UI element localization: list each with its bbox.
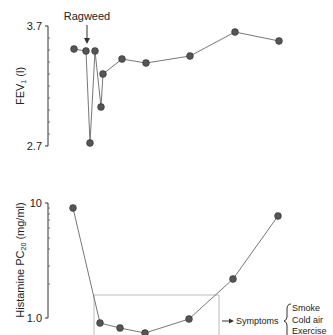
figure: 3.7 2.7 FEV1 (l) Ragweed 10 1.0 [0, 0, 333, 335]
histamine-chart: 10 1.0 Histamine PC20 (mg/ml) Symptoms S… [14, 197, 327, 335]
trigger-cold-air: Cold air [292, 315, 323, 325]
fev1-line [74, 32, 279, 143]
brace-icon [284, 304, 291, 335]
fev1-chart: 3.7 2.7 FEV1 (l) Ragweed [14, 10, 282, 152]
y-axis-label: Histamine PC20 (mg/ml) [14, 202, 27, 317]
y-tick-top: 3.7 [27, 20, 42, 32]
arrow-down-icon [84, 38, 90, 44]
histamine-line [73, 208, 278, 333]
y-axis-label: FEV1 (l) [14, 67, 27, 105]
y-tick-bottom: 2.7 [27, 140, 42, 152]
trigger-exercise: Exercise [292, 326, 327, 335]
symptoms-label: Symptoms [236, 316, 279, 326]
y-tick-bottom: 1.0 [27, 312, 42, 324]
trigger-smoke: Smoke [292, 303, 320, 313]
ragweed-annotation: Ragweed [64, 10, 110, 22]
y-tick-top: 10 [30, 197, 42, 209]
